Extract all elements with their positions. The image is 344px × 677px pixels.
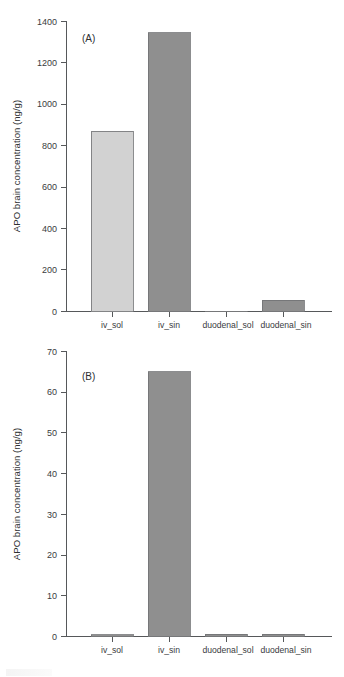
- chart-b-ytick-30: 30: [47, 510, 57, 520]
- chart-b-ytick-0: 0: [52, 632, 57, 642]
- chart-a-y-axis-title: APO brain concentration (ng/g): [11, 100, 22, 232]
- chart-b-panel-tag: (B): [82, 371, 95, 382]
- chart-b-bar-duodenal-sin[interactable]: [262, 634, 304, 637]
- chart-b-ytick-40: 40: [47, 469, 57, 479]
- chart-a-bar-duodenal-sol[interactable]: [205, 311, 247, 312]
- chart-a-svg: 1400 1200 1000 800 600 400 200 0 APO bra…: [0, 0, 344, 340]
- chart-b-x-ticks: [112, 637, 283, 643]
- chart-b-ytick-20: 20: [47, 550, 57, 560]
- chart-a-ytick-600: 600: [42, 182, 57, 192]
- chart-a-x-ticks: [112, 312, 283, 318]
- chart-b-ytick-70: 70: [47, 347, 57, 357]
- chart-a-bar-iv-sol[interactable]: [91, 131, 133, 312]
- chart-b-ytick-60: 60: [47, 387, 57, 397]
- chart-b-ytick-50: 50: [47, 428, 57, 438]
- chart-a-xtick-duodenal-sin: duodenal_sin: [260, 320, 311, 330]
- chart-b-svg: 70 60 50 40 30 20 10 0 APO brain concent…: [0, 338, 344, 677]
- chart-a-ytick-200: 200: [42, 265, 57, 275]
- chart-b-y-axis-title: APO brain concentration (ng/g): [11, 428, 22, 560]
- chart-a-panel-tag: (A): [82, 33, 95, 44]
- chart-b-bar-duodenal-sol[interactable]: [205, 634, 247, 636]
- chart-b-bar-iv-sin[interactable]: [148, 372, 190, 637]
- chart-a-ytick-1000: 1000: [37, 99, 57, 109]
- chart-panel-a: 1400 1200 1000 800 600 400 200 0 APO bra…: [0, 0, 344, 340]
- chart-b-bar-iv-sol[interactable]: [91, 635, 133, 637]
- chart-b-xtick-iv-sin: iv_sin: [158, 645, 180, 655]
- chart-a-ytick-1400: 1400: [37, 17, 57, 27]
- chart-a-ytick-0: 0: [52, 307, 57, 317]
- chart-panel-b: 70 60 50 40 30 20 10 0 APO brain concent…: [0, 338, 344, 677]
- chart-a-ytick-800: 800: [42, 141, 57, 151]
- chart-a-y-ticks: [61, 22, 67, 312]
- figure-container: 1400 1200 1000 800 600 400 200 0 APO bra…: [0, 0, 344, 677]
- chart-b-ytick-10: 10: [47, 591, 57, 601]
- chart-a-xtick-iv-sol: iv_sol: [101, 320, 123, 330]
- page-edge-artifact: [6, 669, 52, 676]
- chart-b-y-ticks: [61, 352, 67, 637]
- chart-a-xtick-duodenal-sol: duodenal_sol: [202, 320, 253, 330]
- chart-b-xtick-duodenal-sol: duodenal_sol: [202, 645, 253, 655]
- chart-a-ytick-400: 400: [42, 224, 57, 234]
- chart-b-xtick-duodenal-sin: duodenal_sin: [260, 645, 311, 655]
- chart-a-ytick-1200: 1200: [37, 58, 57, 68]
- chart-a-bar-duodenal-sin[interactable]: [262, 300, 304, 312]
- chart-b-xtick-iv-sol: iv_sol: [101, 645, 123, 655]
- chart-a-bar-iv-sin[interactable]: [148, 33, 190, 312]
- chart-a-xtick-iv-sin: iv_sin: [158, 320, 180, 330]
